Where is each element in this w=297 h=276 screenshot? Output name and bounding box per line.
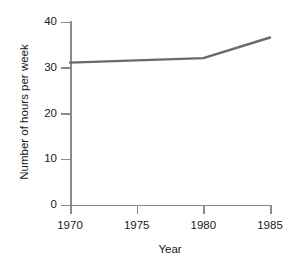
plot-area (0, 0, 297, 276)
data-series-line (70, 38, 270, 63)
line-chart: 40 30 20 10 0 1970 1975 1980 1985 Year N… (0, 0, 297, 276)
